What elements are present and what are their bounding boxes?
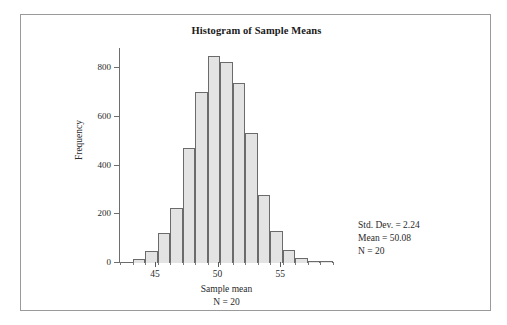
histogram-bar (208, 56, 221, 263)
x-minor-tick (183, 262, 184, 265)
histogram-bar (183, 148, 196, 264)
y-tick-label: 0 (107, 257, 112, 267)
x-minor-tick (120, 262, 121, 265)
histogram-bar (120, 262, 133, 264)
histogram-bar (195, 92, 208, 263)
x-minor-tick (320, 262, 321, 265)
stats-mean: Mean = 50.08 (358, 232, 420, 245)
x-minor-tick (158, 262, 159, 265)
histogram-bar (258, 195, 271, 263)
x-minor-tick (233, 262, 234, 265)
plot-area: 0200400600800 455055 (119, 48, 334, 263)
x-minor-tick (295, 262, 296, 265)
x-minor-tick (283, 262, 284, 265)
screenshot-root: Histogram of Sample Means Frequency 0200… (0, 0, 507, 325)
x-minor-tick (333, 262, 334, 265)
x-minor-tick (195, 262, 196, 265)
x-minor-tick (308, 262, 309, 265)
y-tick-label: 800 (98, 62, 112, 72)
x-minor-tick (145, 262, 146, 265)
x-tick-mark (280, 262, 281, 267)
x-tick-mark (218, 262, 219, 267)
histogram-bar (245, 133, 258, 263)
x-minor-tick (270, 262, 271, 265)
histogram-bar (283, 250, 296, 263)
histogram-bar (308, 261, 321, 263)
stats-annotation: Std. Dev. = 2.24 Mean = 50.08 N = 20 (358, 219, 420, 258)
histogram-bars-group (120, 48, 334, 263)
y-axis-title: Frequency (74, 120, 84, 160)
histogram-bar (158, 233, 171, 263)
x-minor-tick (208, 262, 209, 265)
stats-std-dev: Std. Dev. = 2.24 (358, 219, 420, 232)
stats-n: N = 20 (358, 245, 420, 258)
x-tick-mark (155, 262, 156, 267)
histogram-bar (220, 62, 233, 263)
histogram-bar (295, 258, 308, 263)
histogram-bar (170, 208, 183, 263)
x-axis-title: Sample mean (119, 284, 334, 294)
x-minor-tick (245, 262, 246, 265)
x-axis-subtitle: N = 20 (119, 297, 334, 307)
x-minor-tick (170, 262, 171, 265)
histogram-bar (233, 83, 246, 263)
y-tick-label: 200 (98, 208, 112, 218)
histogram-bar (320, 261, 333, 263)
x-minor-tick (133, 262, 134, 265)
histogram-bar (270, 231, 283, 263)
y-tick-label: 600 (98, 111, 112, 121)
x-tick-label: 50 (213, 269, 223, 279)
x-minor-tick (258, 262, 259, 265)
x-minor-tick (220, 262, 221, 265)
histogram-bar (133, 259, 146, 263)
page-title: Histogram of Sample Means (21, 25, 492, 36)
y-tick-label: 400 (98, 160, 112, 170)
x-tick-label: 45 (150, 269, 160, 279)
x-tick-label: 55 (275, 269, 285, 279)
figure-frame: Histogram of Sample Means Frequency 0200… (20, 14, 491, 311)
